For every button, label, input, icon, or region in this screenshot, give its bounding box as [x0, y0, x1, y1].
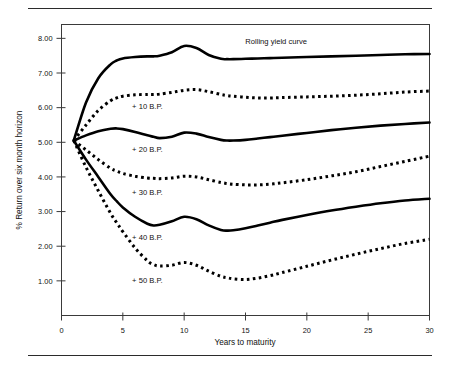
- plot-area: 1.002.003.004.005.006.007.008.00 0510152…: [0, 0, 457, 369]
- x-tick-label: 30: [425, 326, 433, 335]
- series-annotation: + 40 B.P.: [132, 233, 162, 242]
- y-axis-title: % Return over six month horizon: [15, 110, 24, 229]
- series-line: [74, 90, 430, 141]
- x-tick-label: 20: [303, 326, 311, 335]
- series-curves: [74, 46, 430, 280]
- y-tick-label: 2.00: [38, 242, 52, 251]
- series-annotation: + 20 B.P.: [132, 145, 162, 154]
- y-tick-label: 4.00: [38, 173, 52, 182]
- series-line: [74, 141, 430, 231]
- x-axis-title: Years to maturity: [214, 338, 276, 347]
- series-line: [74, 141, 430, 185]
- x-tick-label: 5: [121, 326, 125, 335]
- series-annotation: + 30 B.P.: [132, 188, 162, 197]
- x-tick-label: 0: [59, 326, 63, 335]
- y-tick-label: 8.00: [38, 34, 52, 43]
- y-tick-label: 5.00: [38, 138, 52, 147]
- y-tick-label: 3.00: [38, 207, 52, 216]
- x-tick-label: 15: [241, 326, 249, 335]
- series-annotation: + 10 B.P.: [132, 102, 162, 111]
- series-annotations: Rolling yield curve+ 10 B.P.+ 20 B.P.+ 3…: [132, 37, 307, 285]
- line-chart: 1.002.003.004.005.006.007.008.00 0510152…: [0, 0, 457, 369]
- y-tick-label: 6.00: [38, 103, 52, 112]
- series-annotation: Rolling yield curve: [245, 37, 307, 46]
- x-tick-label: 25: [364, 326, 372, 335]
- figure-container: 1.002.003.004.005.006.007.008.00 0510152…: [0, 0, 457, 369]
- plot-frame: [62, 25, 430, 316]
- y-tick-label: 7.00: [38, 69, 52, 78]
- y-tick-label: 1.00: [38, 277, 52, 286]
- x-tick-label: 10: [180, 326, 188, 335]
- series-line: [74, 123, 430, 141]
- series-annotation: + 50 B.P.: [132, 276, 162, 285]
